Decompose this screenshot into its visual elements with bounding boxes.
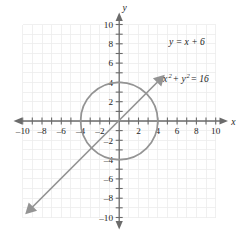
y-tick-label: 8 xyxy=(108,39,113,49)
x-tick-label: 8 xyxy=(194,126,199,136)
line-curve xyxy=(31,80,160,209)
x-axis-arrow-right xyxy=(220,117,229,124)
y-axis-arrow-up xyxy=(116,13,123,22)
circle-equation-plus: + xyxy=(172,73,178,84)
x-tick-label: 2 xyxy=(136,126,141,136)
y-tick-label: 2 xyxy=(108,97,113,107)
y-tick-label: –8 xyxy=(103,193,114,203)
line-equation-label: y = x + 6 xyxy=(168,36,205,47)
graph-canvas: –10 –8 –6 –4 –2 2 4 6 8 10 10 8 6 4 2 –2… xyxy=(0,0,248,234)
circle-equation-equals: = 16 xyxy=(190,73,209,84)
x-tick-label: 10 xyxy=(211,126,221,136)
y-tick-label: –2 xyxy=(103,136,114,146)
x-tick-label: –8 xyxy=(36,126,47,136)
y-tick-label: 10 xyxy=(104,20,114,30)
y-tick-label: –10 xyxy=(98,213,113,223)
y-axis-arrow-down xyxy=(116,221,123,230)
x-tick-label: –2 xyxy=(94,126,105,136)
y-tick-label: –6 xyxy=(103,174,114,184)
x-tick-label: –6 xyxy=(56,126,67,136)
y-tick-label: 6 xyxy=(108,58,113,68)
x-tick-label: 6 xyxy=(175,126,180,136)
x-axis-arrow-left xyxy=(14,117,23,124)
circle-equation-x-base: x xyxy=(162,73,168,84)
y-axis-label: y xyxy=(122,2,128,13)
x-axis-label: x xyxy=(230,116,236,127)
coordinate-graph-figure: –10 –8 –6 –4 –2 2 4 6 8 10 10 8 6 4 2 –2… xyxy=(0,0,248,234)
x-tick-label: –10 xyxy=(15,126,30,136)
